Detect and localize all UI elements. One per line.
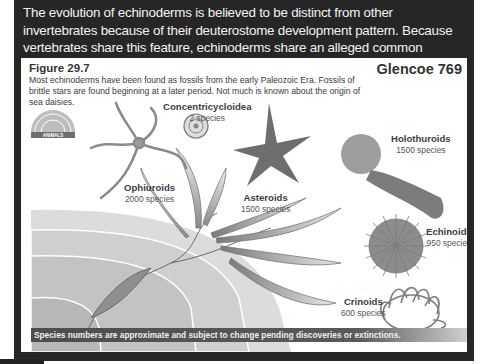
figure-label: Figure 29.7 — [29, 62, 90, 74]
svg-text:ANIMALS: ANIMALS — [43, 133, 64, 138]
taxon-echinoids: Echinoids 950 species — [426, 226, 467, 248]
figure-panel: ANIMALS — [21, 58, 467, 352]
taxon-crinoids: Crinoids 600 species — [341, 296, 386, 318]
taxon-name: Echinoids — [426, 226, 467, 237]
sea-urchin-illustration — [364, 214, 428, 278]
figure-footnote: Species numbers are approximate and subj… — [31, 328, 467, 342]
taxon-count: 600 species — [341, 308, 386, 318]
taxon-asteroids: Asteroids 1500 species — [241, 192, 290, 214]
taxon-concentricycloidea: Concentricycloidea 2 species — [163, 101, 252, 123]
crinoid-illustration — [381, 288, 446, 331]
taxon-ophiuroids: Ophiuroids 2000 species — [124, 182, 175, 204]
taxon-count: 1500 species — [241, 204, 290, 214]
taxon-count: 1500 species — [391, 145, 451, 155]
taxon-holothuroids: Holothuroids 1500 species — [391, 133, 451, 155]
taxon-name: Asteroids — [241, 192, 290, 203]
taxon-name: Crinoids — [341, 296, 386, 307]
taxon-name: Concentricycloidea — [163, 101, 252, 112]
source-citation: Glencoe 769 — [377, 61, 462, 77]
taxon-count: 2 species — [163, 113, 252, 123]
animals-logo-icon: ANIMALS — [31, 110, 75, 138]
decorative-corner-bar — [0, 359, 44, 364]
taxon-count: 950 species — [426, 238, 467, 248]
taxon-name: Holothuroids — [391, 133, 451, 144]
taxon-name: Ophiuroids — [124, 182, 175, 193]
taxon-count: 2000 species — [124, 194, 175, 204]
intro-text: The evolution of echinoderms is believed… — [14, 0, 474, 56]
